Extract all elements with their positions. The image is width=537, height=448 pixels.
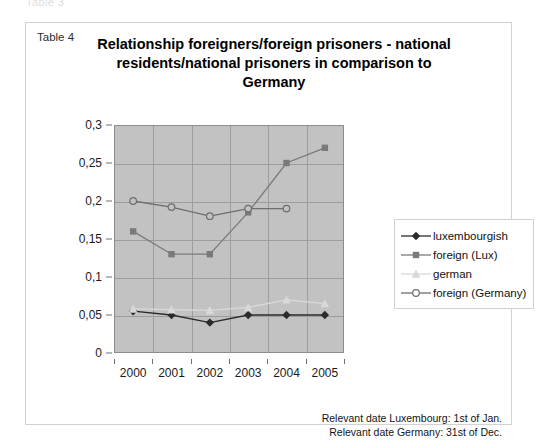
data-point-marker <box>283 160 289 166</box>
data-point-marker <box>322 145 328 151</box>
figure-card: Table 4 Relationship foreigners/foreign … <box>25 22 512 425</box>
footnote-luxembourg: Relevant date Luxembourg: 1st of Jan. <box>202 411 502 425</box>
chart-title-line-2: residents/national prisoners in comparis… <box>74 54 474 73</box>
y-axis-tick <box>106 201 112 202</box>
footnote-germany: Relevant date Germany: 31st of Dec. <box>202 425 502 439</box>
x-axis: 200020012002200320042005 <box>114 359 346 379</box>
legend-marker-icon <box>399 229 433 243</box>
y-axis-tick <box>106 239 112 240</box>
y-axis-tick <box>106 315 112 316</box>
x-axis-tick-label: 2001 <box>158 366 185 380</box>
x-axis-tick <box>306 359 307 364</box>
y-axis-tick <box>106 277 112 278</box>
series-line <box>133 148 325 254</box>
y-axis-tick-label: 0,2 <box>85 194 102 208</box>
y-axis-tick <box>106 353 112 354</box>
x-axis-tick-label: 2004 <box>273 366 300 380</box>
data-point-marker <box>168 251 174 257</box>
chart-title-line-3: Germany <box>74 73 474 92</box>
series-line <box>133 311 325 322</box>
legend-item[interactable]: luxembourgish <box>399 226 529 245</box>
y-axis-tick-label: 0,1 <box>85 270 102 284</box>
legend-item-label: foreign (Lux) <box>433 249 498 261</box>
data-point-marker <box>245 205 252 212</box>
footnotes: Relevant date Luxembourg: 1st of Jan. Re… <box>202 411 502 439</box>
legend-item[interactable]: german <box>399 264 529 283</box>
legend-marker-icon <box>399 267 433 281</box>
y-axis-tick-label: 0,3 <box>85 118 102 132</box>
y-axis-tick-label: 0,25 <box>79 156 102 170</box>
data-point-marker <box>207 213 214 220</box>
legend-marker-icon <box>399 248 433 262</box>
y-axis-tick-label: 0,15 <box>79 232 102 246</box>
x-axis-tick <box>152 359 153 364</box>
x-axis-tick <box>229 359 230 364</box>
data-point-marker <box>130 198 137 205</box>
table-label: Table 4 <box>37 31 74 43</box>
x-axis-tick-label: 2002 <box>196 366 223 380</box>
chart-title: Relationship foreigners/foreign prisoner… <box>74 35 474 92</box>
x-axis-tick <box>191 359 192 364</box>
data-point-marker <box>207 251 213 257</box>
series-line <box>133 300 325 311</box>
chart-title-line-1: Relationship foreigners/foreign prisoner… <box>74 35 474 54</box>
data-point-marker <box>130 228 136 234</box>
x-axis-tick <box>267 359 268 364</box>
y-axis-tick <box>106 125 112 126</box>
y-axis-tick-label: 0 <box>95 346 102 360</box>
data-point-marker <box>168 204 175 211</box>
data-point-marker <box>321 311 329 319</box>
ghost-previous-table-label: Table 3 <box>26 0 64 8</box>
y-axis-tick <box>106 163 112 164</box>
legend-item-label: foreign (Germany) <box>433 287 526 299</box>
legend-item-label: luxembourgish <box>433 230 508 242</box>
legend-item-label: german <box>433 268 472 280</box>
legend-item[interactable]: foreign (Lux) <box>399 245 529 264</box>
chart-legend: luxembourgishforeign (Lux)germanforeign … <box>394 219 534 309</box>
legend-marker-icon <box>399 286 433 300</box>
x-axis-tick <box>114 359 115 364</box>
data-point-marker <box>244 311 252 319</box>
data-point-marker <box>282 311 290 319</box>
y-axis: 00,050,10,150,20,250,3 <box>26 123 110 355</box>
x-axis-tick-label: 2000 <box>120 366 147 380</box>
legend-item[interactable]: foreign (Germany) <box>399 283 529 302</box>
x-axis-tick-label: 2005 <box>311 366 338 380</box>
x-axis-tick <box>344 359 345 364</box>
data-point-marker <box>283 205 290 212</box>
data-point-marker <box>206 318 214 326</box>
series-lines <box>114 125 344 353</box>
y-axis-tick-label: 0,05 <box>79 308 102 322</box>
x-axis-tick-label: 2003 <box>235 366 262 380</box>
